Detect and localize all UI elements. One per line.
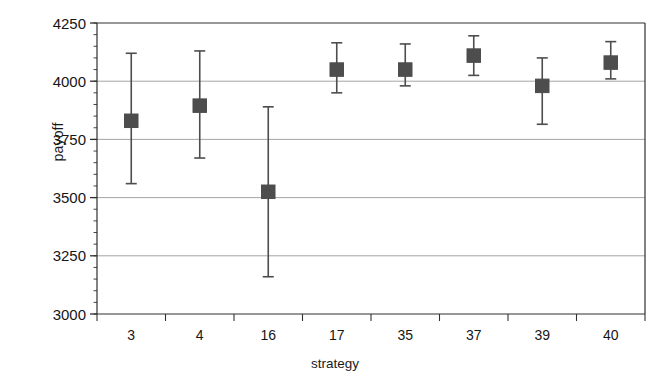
gridlines [97, 23, 645, 314]
y-axis-major-ticks [90, 23, 97, 314]
marker-square [536, 79, 550, 93]
marker-square [125, 114, 139, 128]
chart-container: payoff strategy 300032503500375040004250… [0, 0, 670, 390]
errorbar-plot: 300032503500375040004250 34161735373940 [0, 0, 670, 390]
marker-square [330, 63, 344, 76]
data-point [193, 51, 207, 158]
data-point [399, 44, 413, 86]
data-point [125, 53, 139, 183]
marker-square [399, 63, 413, 76]
x-tick-label: 17 [329, 327, 345, 343]
marker-square [467, 49, 481, 63]
x-tick-label: 35 [397, 327, 413, 343]
y-tick-label: 3250 [53, 247, 86, 264]
marker-square [604, 56, 618, 70]
y-tick-label: 4000 [53, 73, 86, 90]
y-axis-title: payoff [50, 92, 66, 192]
data-point [262, 107, 276, 277]
data-point [467, 36, 481, 76]
x-tick-label: 16 [260, 327, 276, 343]
x-tick-label: 37 [466, 327, 482, 343]
marker-square [193, 99, 207, 113]
x-tick-label: 39 [534, 327, 550, 343]
y-tick-label: 4250 [53, 15, 86, 32]
y-tick-label: 3000 [53, 306, 86, 323]
x-tick-label: 40 [603, 327, 619, 343]
data-point [536, 58, 550, 124]
data-series [125, 36, 618, 277]
marker-square [262, 185, 276, 199]
data-point [604, 42, 618, 79]
x-tick-label: 3 [127, 327, 135, 343]
x-axis-ticks [97, 314, 645, 321]
x-axis-title: strategy [0, 356, 670, 371]
x-tick-label: 4 [196, 327, 204, 343]
plot-frame [97, 23, 645, 314]
x-axis-tick-labels: 34161735373940 [127, 327, 618, 343]
data-point [330, 43, 344, 93]
